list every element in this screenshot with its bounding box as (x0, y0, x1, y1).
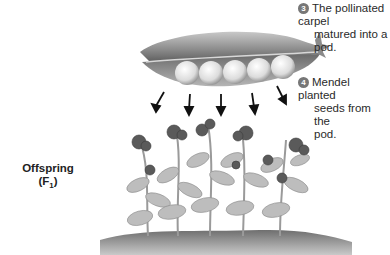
step-3-line-1: The pollinated carpel (298, 2, 384, 27)
step-3-caption: 3The pollinated carpel matured into a po… (298, 2, 390, 54)
generation-label: (F1) (20, 175, 76, 192)
step-4-number-icon: 4 (298, 77, 309, 88)
generation-suffix: ) (54, 175, 58, 187)
step-3-line-2: matured into a pod. (298, 28, 390, 54)
step-4-caption: 4Mendel planted seeds from the pod. (298, 76, 390, 141)
step-3-number-icon: 3 (298, 3, 309, 14)
step-4-line-2: seeds from the (298, 102, 390, 128)
planting-arrows (152, 86, 286, 115)
offspring-title: Offspring (20, 162, 76, 175)
pea-plants (125, 119, 312, 236)
generation-prefix: (F (38, 175, 49, 187)
step-4-line-3: pod. (298, 128, 390, 141)
soil (100, 230, 352, 255)
offspring-label: Offspring (F1) (20, 162, 76, 192)
